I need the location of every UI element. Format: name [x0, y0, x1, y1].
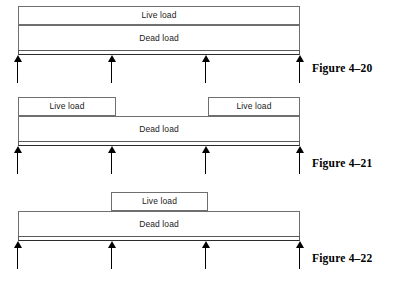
dead-load-label: Dead load	[139, 125, 179, 134]
support-reaction-arrow	[14, 241, 23, 269]
dead-load-box: Dead load	[18, 211, 300, 236]
beam-strip	[18, 236, 300, 241]
dead-load-label: Dead load	[139, 34, 179, 43]
support-reaction-arrow	[14, 146, 23, 174]
arrow-shaft	[111, 245, 113, 269]
support-reaction-arrow	[296, 146, 305, 174]
live-load-box: Live load	[18, 6, 300, 25]
arrow-shaft	[205, 150, 207, 174]
support-reaction-arrow	[202, 55, 211, 83]
support-reaction-arrow	[202, 146, 211, 174]
arrow-shaft	[299, 245, 301, 269]
support-reaction-arrow	[108, 55, 117, 83]
support-reaction-arrow	[108, 241, 117, 269]
live-load-label: Live load	[237, 102, 272, 111]
beam-strip	[18, 141, 300, 146]
arrow-shaft	[111, 150, 113, 174]
arrow-shaft	[111, 59, 113, 83]
live-load-label: Live load	[142, 197, 177, 206]
dead-load-label: Dead load	[139, 220, 179, 229]
support-reaction-arrow	[14, 55, 23, 83]
live-load-box: Live load	[208, 97, 300, 116]
figure-caption: Figure 4–20	[312, 62, 372, 74]
arrow-shaft	[205, 59, 207, 83]
arrow-shaft	[299, 59, 301, 83]
live-load-box: Live load	[111, 192, 208, 211]
arrow-shaft	[299, 150, 301, 174]
dead-load-box: Dead load	[18, 116, 300, 141]
live-load-label: Live load	[142, 11, 177, 20]
arrow-shaft	[205, 245, 207, 269]
arrow-shaft	[17, 245, 19, 269]
arrow-shaft	[17, 59, 19, 83]
dead-load-box: Dead load	[18, 25, 300, 50]
figure-caption: Figure 4–21	[312, 157, 372, 169]
beam-strip	[18, 50, 300, 55]
support-reaction-arrow	[296, 55, 305, 83]
support-reaction-arrow	[202, 241, 211, 269]
live-load-label: Live load	[50, 102, 85, 111]
figure-caption: Figure 4–22	[312, 252, 372, 264]
live-load-box: Live load	[18, 97, 116, 116]
support-reaction-arrow	[108, 146, 117, 174]
support-reaction-arrow	[296, 241, 305, 269]
arrow-shaft	[17, 150, 19, 174]
